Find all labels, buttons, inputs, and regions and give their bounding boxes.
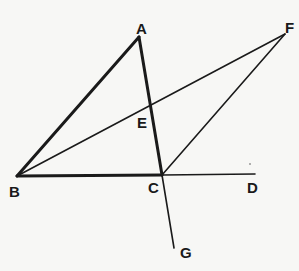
geometry-diagram: A B C D E F G — [0, 0, 299, 271]
label-point-f: F — [285, 19, 294, 36]
segment-ab — [17, 37, 139, 176]
segment-bf — [17, 34, 285, 176]
segment-cg — [162, 175, 174, 248]
label-point-g: G — [180, 244, 192, 261]
label-point-d: D — [247, 179, 258, 196]
label-point-a: A — [136, 20, 147, 37]
segment-bc — [17, 175, 162, 176]
label-point-b: B — [9, 183, 20, 200]
label-point-e: E — [137, 114, 147, 131]
segment-cd — [162, 174, 255, 175]
segment-cf — [162, 34, 285, 175]
speck-mark — [249, 163, 251, 165]
label-point-c: C — [148, 179, 159, 196]
